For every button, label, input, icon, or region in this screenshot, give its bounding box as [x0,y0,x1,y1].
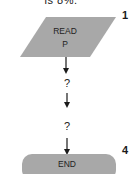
arrow-head-icon [63,68,69,74]
unknown-step-1: ? [57,77,77,89]
read-variable: P [45,39,85,49]
read-label: READ [45,26,85,36]
step-number-1: 1 [122,9,128,21]
arrow-head-icon [64,102,70,108]
read-input-shape [20,17,116,57]
step-number-4: 4 [122,144,128,156]
unknown-step-2: ? [57,120,77,132]
end-label: END [47,159,87,169]
